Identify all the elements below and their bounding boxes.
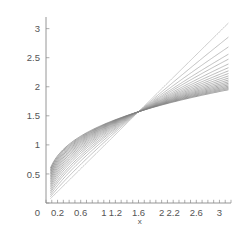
x-tick-label: 2.6 bbox=[190, 207, 203, 218]
curve-9 bbox=[51, 74, 228, 184]
y-tick-label: 2 bbox=[35, 81, 40, 92]
line-chart: 00.20.611.21.622.22.63 0.511.522.53 x bbox=[0, 0, 239, 233]
x-tick-label: 2.2 bbox=[167, 207, 180, 218]
x-tick-label: 1 bbox=[101, 207, 106, 218]
y-tick-label: 1 bbox=[35, 139, 40, 150]
curve-13 bbox=[51, 82, 228, 177]
x-tick-label: 0.2 bbox=[51, 207, 64, 218]
x-tick-marks bbox=[46, 200, 231, 203]
curve-6 bbox=[51, 64, 228, 189]
y-tick-label: 2.5 bbox=[27, 52, 40, 63]
curve-series-group bbox=[51, 23, 228, 198]
x-tick-labels: 00.20.611.21.622.22.63 bbox=[35, 207, 222, 218]
chart-container: 00.20.611.21.622.22.63 0.511.522.53 x bbox=[0, 0, 239, 233]
x-tick-label: 3 bbox=[217, 207, 222, 218]
x-axis-title: x bbox=[138, 217, 142, 226]
curve-5 bbox=[51, 59, 228, 190]
y-tick-marks bbox=[46, 29, 49, 203]
curve-18 bbox=[51, 89, 228, 170]
x-tick-label: 0.6 bbox=[74, 207, 87, 218]
curve-15 bbox=[51, 85, 228, 174]
curve-17 bbox=[51, 87, 228, 170]
y-tick-label: 0.5 bbox=[27, 169, 40, 180]
x-tick-label: 1.2 bbox=[109, 207, 122, 218]
y-tick-label: 1.5 bbox=[27, 110, 40, 121]
y-tick-label: 3 bbox=[35, 23, 40, 34]
x-tick-label: 2 bbox=[159, 207, 164, 218]
x-tick-label: 0 bbox=[35, 207, 40, 218]
axes-group bbox=[46, 17, 231, 203]
y-tick-labels: 0.511.522.53 bbox=[27, 23, 40, 179]
